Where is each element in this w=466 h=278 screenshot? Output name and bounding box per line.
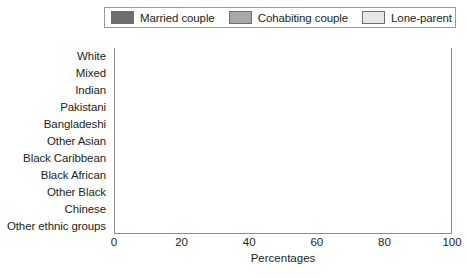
legend-label-cohabiting-couple: Cohabiting couple — [258, 12, 348, 24]
legend-item-cohabiting-couple: Cohabiting couple — [229, 11, 348, 24]
x-tick-label: 60 — [310, 236, 323, 249]
bar-segment — [215, 152, 256, 164]
bar-segment — [114, 101, 374, 113]
x-tick-label: 100 — [442, 236, 461, 249]
y-axis-label: Indian — [75, 84, 106, 96]
x-tick-label: 40 — [243, 236, 256, 249]
bar-segment — [114, 84, 398, 96]
x-tick-label: 0 — [111, 236, 117, 249]
x-axis-title: Percentages — [114, 252, 452, 265]
bar-segment — [114, 67, 253, 79]
bar-segment — [384, 118, 452, 130]
chart-legend: Married couple Cohabiting couple Lone-pa… — [104, 7, 456, 28]
bar-segment — [324, 50, 365, 62]
bar-row — [114, 50, 452, 62]
bar-segment — [384, 101, 452, 113]
y-axis-label: Pakistani — [60, 101, 106, 113]
y-axis-label: White — [77, 50, 106, 62]
bar-row — [114, 118, 452, 130]
x-axis-tick-labels: 020406080100 — [114, 236, 452, 250]
bar-segment — [381, 135, 388, 147]
bar-segment — [361, 220, 375, 232]
bar-segment — [388, 135, 452, 147]
bar-segment — [364, 50, 452, 62]
legend-label-married-couple: Married couple — [140, 12, 215, 24]
bar-segment — [398, 84, 405, 96]
bar-segment — [114, 220, 361, 232]
legend-swatch-cohabiting-couple — [229, 11, 252, 24]
bar-segment — [259, 169, 286, 181]
bar-row — [114, 220, 452, 232]
bar-segment — [256, 152, 452, 164]
x-tick-label: 80 — [378, 236, 391, 249]
y-axis-label: Black Caribbean — [23, 152, 106, 164]
bar-segment — [378, 203, 388, 215]
legend-item-lone-parent: Lone-parent — [362, 11, 452, 24]
y-axis-label: Chinese — [65, 203, 107, 215]
bar-segment — [236, 186, 452, 198]
bar-segment — [253, 67, 297, 79]
bar-segment — [405, 84, 452, 96]
bar-segment — [286, 169, 452, 181]
plot-area — [114, 48, 452, 234]
bar-row — [114, 203, 452, 215]
bar-row — [114, 169, 452, 181]
bar-row — [114, 135, 452, 147]
bar-segment — [114, 186, 202, 198]
bar-segment — [374, 220, 452, 232]
bar-segment — [114, 203, 378, 215]
bar-segment — [114, 152, 215, 164]
y-axis-label: Other Asian — [47, 135, 106, 147]
bar-segment — [374, 101, 384, 113]
bar-segment — [114, 169, 259, 181]
legend-swatch-lone-parent — [362, 11, 385, 24]
bar-segment — [114, 135, 381, 147]
bar-segment — [202, 186, 236, 198]
stacked-bar-chart-figure: Married couple Cohabiting couple Lone-pa… — [0, 0, 466, 278]
legend-label-lone-parent: Lone-parent — [391, 12, 452, 24]
legend-item-married-couple: Married couple — [111, 11, 215, 24]
bar-row — [114, 101, 452, 113]
legend-swatch-married-couple — [111, 11, 134, 24]
bar-row — [114, 67, 452, 79]
y-axis-label: Mixed — [76, 67, 106, 79]
y-axis-label: Black African — [41, 169, 106, 181]
bar-row — [114, 186, 452, 198]
y-axis-label: Other ethnic groups — [7, 220, 106, 232]
bar-segment — [388, 203, 452, 215]
bar-segment — [114, 118, 374, 130]
bar-segment — [297, 67, 452, 79]
bar-row — [114, 84, 452, 96]
y-axis-label: Other Black — [47, 186, 106, 198]
bar-row — [114, 152, 452, 164]
y-axis-category-labels: WhiteMixedIndianPakistaniBangladeshiOthe… — [0, 48, 110, 234]
bar-segment — [114, 50, 324, 62]
y-axis-label: Bangladeshi — [44, 118, 106, 130]
bar-series-container — [114, 48, 452, 234]
x-tick-label: 20 — [175, 236, 188, 249]
bar-segment — [374, 118, 384, 130]
